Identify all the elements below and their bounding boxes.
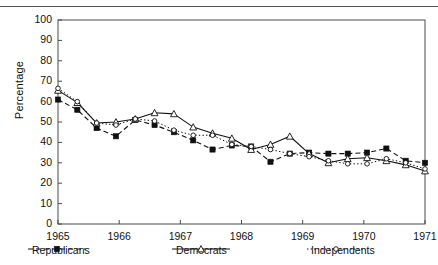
legend-item-independents: Independents <box>305 240 375 260</box>
y-tick-label: 10 <box>26 197 52 209</box>
y-tick-label: 90 <box>26 33 52 45</box>
y-tick-label: 30 <box>26 156 52 168</box>
y-tick-label: 20 <box>26 176 52 188</box>
y-tick-label: 60 <box>26 95 52 107</box>
y-tick-label: 80 <box>26 54 52 66</box>
legend-swatch-independents <box>305 240 367 258</box>
y-tick-label: 50 <box>26 115 52 127</box>
y-tick-label: 40 <box>26 135 52 147</box>
figure-container: Percentage 1009080706050403020100 196519… <box>0 0 438 265</box>
y-tick-label: 100 <box>26 13 52 25</box>
legend-item-democrats: Democrats <box>170 240 227 260</box>
y-tick-label: 70 <box>26 74 52 86</box>
legend-item-republicans: Republicans <box>26 240 90 260</box>
legend-swatch-democrats <box>170 240 232 258</box>
legend-swatch-republicans <box>26 240 88 258</box>
y-tick-label: 0 <box>26 217 52 229</box>
chart-legend: Republicans Democrats Independents <box>0 240 438 262</box>
chart-plot-area <box>0 0 438 265</box>
